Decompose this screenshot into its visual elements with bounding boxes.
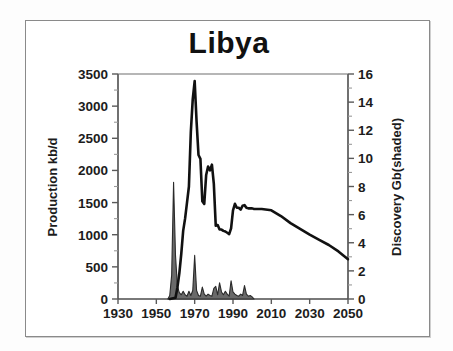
x-tick-label: 1990 — [218, 306, 248, 321]
y2-tick-label: 14 — [358, 95, 374, 110]
y-tick-label: 1000 — [78, 228, 108, 243]
y-tick-label: 3500 — [78, 67, 108, 82]
chart-title: Libya — [189, 26, 270, 59]
plot-frame — [118, 74, 348, 299]
x-tick-label: 2010 — [256, 306, 286, 321]
x-tick-label: 1970 — [180, 306, 210, 321]
y2-axis: 0246810121416 — [348, 67, 374, 307]
y-tick-label: 2000 — [78, 163, 108, 178]
x-tick-label: 2030 — [295, 306, 325, 321]
x-tick-label: 1930 — [103, 306, 133, 321]
x-axis: 1930195019701990201020302050 — [103, 299, 363, 321]
y2-tick-label: 8 — [358, 180, 366, 195]
y2-axis-title: Discovery Gb(shaded) — [389, 118, 404, 256]
x-tick-label: 2050 — [333, 306, 363, 321]
y2-tick-label: 4 — [358, 236, 366, 251]
y2-tick-label: 10 — [358, 151, 373, 166]
y-tick-label: 2500 — [78, 131, 108, 146]
y2-tick-label: 12 — [358, 123, 373, 138]
libya-production-discovery-chart: Libya Production kb/d Discovery Gb(shade… — [0, 0, 453, 351]
figure-root: Libya Production kb/d Discovery Gb(shade… — [0, 0, 453, 351]
y-tick-label: 3000 — [78, 99, 108, 114]
y-axis: 0500100015002000250030003500 — [78, 67, 118, 307]
data-series-group — [168, 81, 348, 299]
y-tick-label: 500 — [85, 260, 108, 275]
production-line-series — [170, 81, 348, 299]
y-tick-label: 0 — [100, 292, 108, 307]
x-tick-label: 1950 — [141, 306, 171, 321]
y-axis-title: Production kb/d — [45, 137, 60, 236]
y2-tick-label: 2 — [358, 264, 366, 279]
y2-tick-label: 0 — [358, 292, 366, 307]
y-tick-label: 1500 — [78, 196, 108, 211]
discovery-area-series — [168, 182, 254, 299]
y2-tick-label: 6 — [358, 208, 366, 223]
y2-tick-label: 16 — [358, 67, 374, 82]
